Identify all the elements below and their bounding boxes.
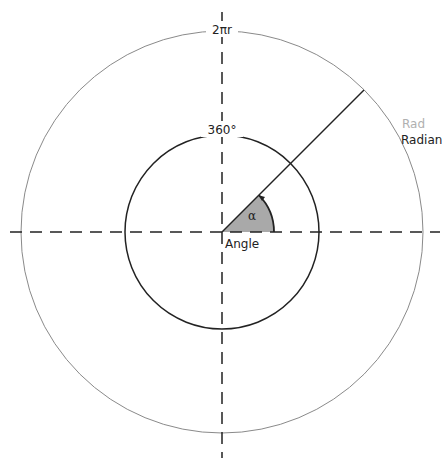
radian-label: Radian bbox=[401, 133, 442, 147]
alpha-label: α bbox=[248, 209, 256, 223]
radian-diagram: 2πr 360° Rad Radian α Angle bbox=[0, 0, 446, 461]
full-angle-label: 360° bbox=[208, 123, 237, 137]
angle-label: Angle bbox=[225, 237, 259, 251]
outer-circumference-label: 2πr bbox=[212, 23, 232, 37]
radius-line bbox=[222, 90, 364, 232]
rad-label: Rad bbox=[402, 117, 425, 131]
